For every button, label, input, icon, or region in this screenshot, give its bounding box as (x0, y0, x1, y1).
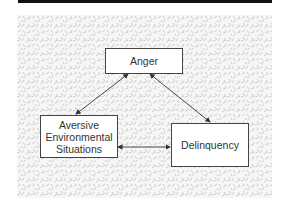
node-aversive-environmental-situations: Aversive Environmental Situations (40, 115, 118, 158)
node-aversive-line-2: Environmental (45, 131, 112, 143)
node-anger-label: Anger (130, 55, 158, 67)
node-delinquency-label: Delinquency (181, 139, 239, 151)
header-rule (18, 0, 272, 3)
node-aversive-line-1: Aversive (59, 119, 99, 131)
node-aversive-line-3: Situations (56, 143, 102, 155)
textured-background (17, 15, 272, 198)
node-anger: Anger (105, 48, 183, 74)
node-delinquency: Delinquency (171, 123, 249, 167)
diagram-panel: Anger Aversive Environmental Situations … (17, 15, 272, 198)
